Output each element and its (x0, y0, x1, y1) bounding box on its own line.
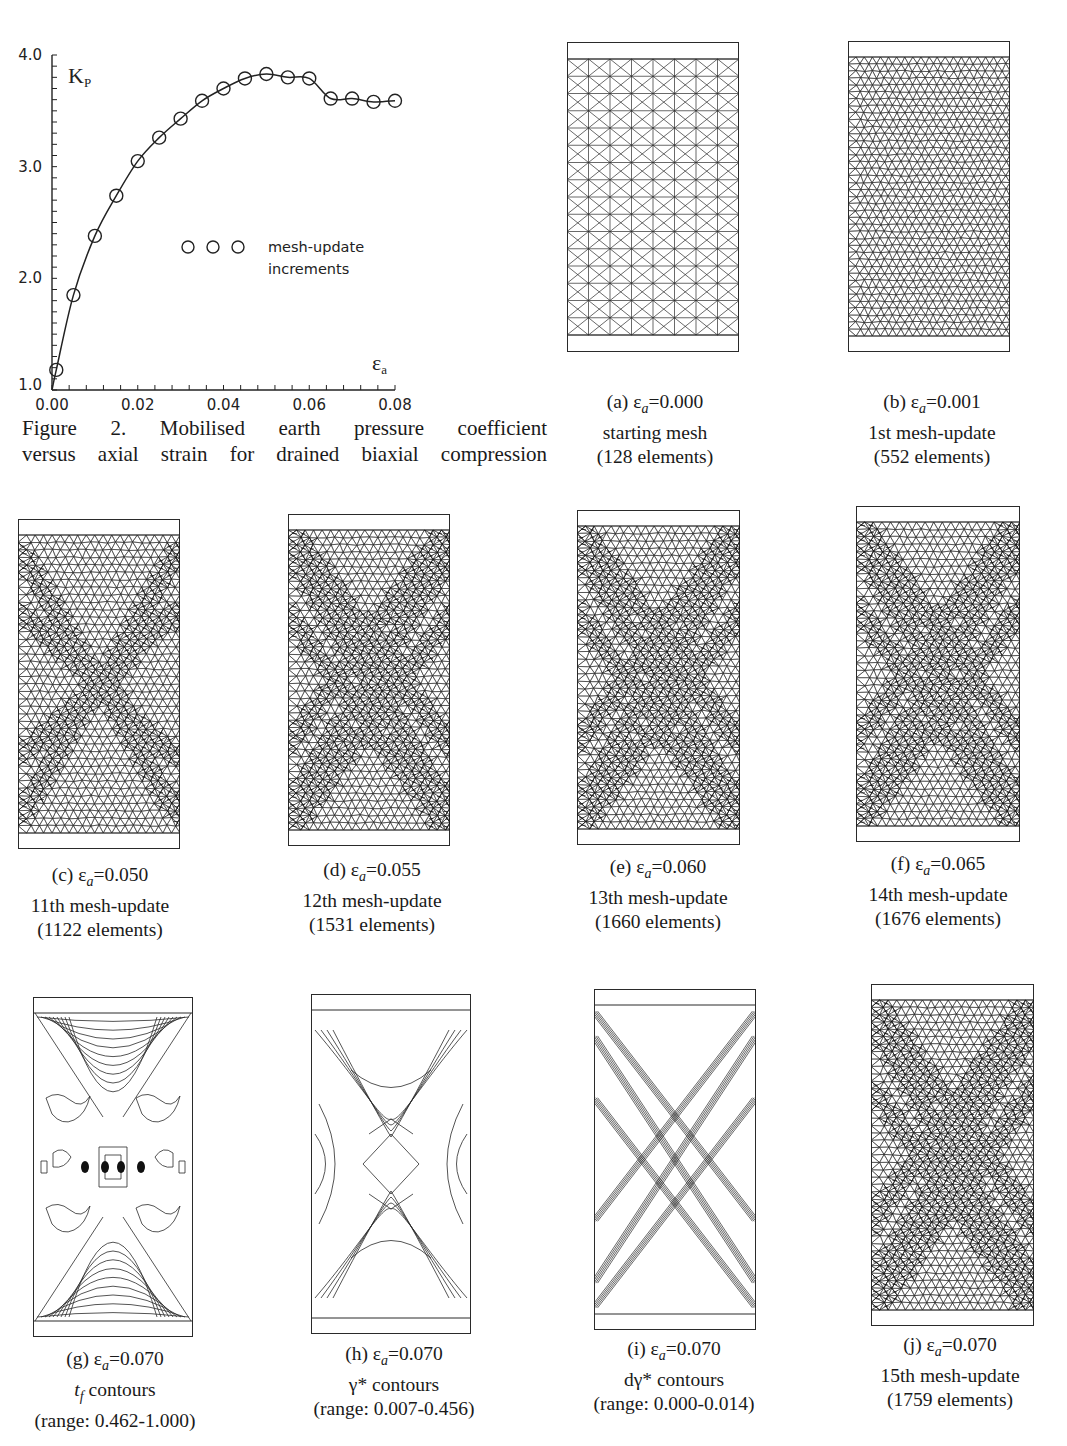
shear-band-refinement (856, 522, 1020, 826)
contour-panel-i (594, 989, 756, 1330)
y-tick-label: 2.0 (18, 269, 42, 287)
mesh-panel-f (856, 506, 1020, 842)
caption-i: (i) εa=0.070 dγ* contours (range: 0.000-… (574, 1337, 774, 1416)
mesh-panel-d (288, 514, 450, 846)
caption-a: (a) εa=0.000 starting mesh (128 elements… (575, 390, 735, 469)
contour-panel-h (311, 994, 471, 1334)
caption-c: (c) εa=0.050 11th mesh-update (1122 elem… (20, 863, 180, 942)
dgamma-contours-figure (594, 989, 756, 1330)
kp-vs-strain-chart: 0.000.020.040.060.081.02.03.04.0KPεamesh… (0, 40, 420, 415)
gamma-contours-figure (311, 994, 471, 1334)
y-axis-label: KP (68, 63, 91, 90)
y-tick-label: 3.0 (18, 158, 42, 176)
x-tick-label: 0.06 (293, 396, 326, 414)
contour-lines (594, 1011, 756, 1308)
contour-panel-g (33, 997, 193, 1337)
x-tick-label: 0.04 (207, 396, 240, 414)
mesh-panel-a (567, 42, 739, 352)
legend-marker (182, 241, 194, 253)
legend-marker (207, 241, 219, 253)
x-tick-label: 0.08 (378, 396, 411, 414)
legend-marker (232, 241, 244, 253)
y-tick-label: 4.0 (18, 46, 42, 64)
kp-curve (52, 74, 395, 390)
mesh-update-15-figure (871, 984, 1034, 1326)
caption-j: (j) εa=0.070 15th mesh-update (1759 elem… (855, 1333, 1045, 1412)
contour-lines (315, 1030, 467, 1298)
mesh-update-1-figure (848, 41, 1010, 352)
caption-f: (f) εa=0.065 14th mesh-update (1676 elem… (858, 852, 1018, 931)
mesh-panel-j (871, 984, 1034, 1326)
caption-e: (e) εa=0.060 13th mesh-update (1660 elem… (578, 855, 738, 934)
caption-h: (h) εa=0.070 γ* contours (range: 0.007-0… (294, 1342, 494, 1421)
tf-contours-figure (33, 997, 193, 1337)
x-tick-label: 0.02 (121, 396, 154, 414)
figure-caption-line-2: versus axial strain for drained biaxial … (22, 441, 547, 467)
figure-caption: Figure 2. Mobilised earth pressure coeff… (22, 415, 547, 467)
mesh-panel-c (18, 519, 180, 849)
x-axis-label: εa (372, 350, 387, 377)
mesh-update-13-figure (577, 510, 740, 845)
caption-b: (b) εa=0.001 1st mesh-update (552 elemen… (852, 390, 1012, 469)
mesh-lines (567, 59, 739, 335)
figure-caption-line-1: Figure 2. Mobilised earth pressure coeff… (22, 415, 547, 441)
mesh-update-12-figure (288, 514, 450, 846)
mesh-panel-e (577, 510, 740, 845)
mesh-update-14-figure (856, 506, 1020, 842)
y-tick-label: 1.0 (18, 376, 42, 394)
x-tick-label: 0.00 (35, 396, 68, 414)
mesh-update-11-figure (18, 519, 180, 849)
starting-mesh-figure (567, 42, 739, 352)
caption-g: (g) εa=0.070 tf contours (range: 0.462-1… (15, 1347, 215, 1433)
legend-label-line-1: mesh-update (268, 239, 364, 255)
mesh-panel-b (848, 41, 1010, 352)
mesh-lines (848, 57, 1010, 336)
caption-d: (d) εa=0.055 12th mesh-update (1531 elem… (292, 858, 452, 937)
legend-label-line-2: increments (268, 261, 349, 277)
contour-lines (35, 1013, 191, 1321)
